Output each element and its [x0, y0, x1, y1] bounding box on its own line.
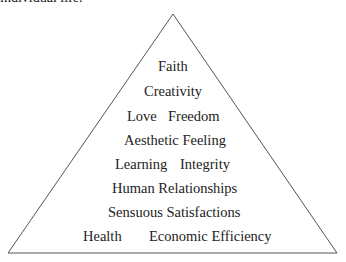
value-economic-efficiency: Economic Efficiency	[149, 227, 272, 245]
pyramid-level-3: Love Freedom	[0, 107, 346, 125]
value-creativity: Creativity	[144, 82, 202, 100]
value-learning: Learning	[115, 155, 167, 173]
value-love: Love	[127, 107, 157, 125]
value-aesthetic-feeling: Aesthetic Feeling	[124, 131, 226, 149]
pyramid-level-6: Human Relationships	[0, 179, 346, 197]
value-integrity: Integrity	[180, 155, 230, 173]
pyramid-level-2: Creativity	[0, 82, 346, 100]
value-sensuous-satisfactions: Sensuous Satisfactions	[108, 203, 241, 221]
pyramid-level-5: Learning Integrity	[0, 155, 346, 173]
value-human-relationships: Human Relationships	[112, 179, 237, 197]
value-faith: Faith	[158, 57, 188, 75]
pyramid-level-8: Health Economic Efficiency	[0, 227, 346, 245]
value-health: Health	[83, 227, 122, 245]
pyramid-level-4: Aesthetic Feeling	[0, 131, 346, 149]
pyramid-level-1: Faith	[0, 57, 346, 75]
pyramid-level-7: Sensuous Satisfactions	[0, 203, 346, 221]
value-freedom: Freedom	[168, 107, 220, 125]
